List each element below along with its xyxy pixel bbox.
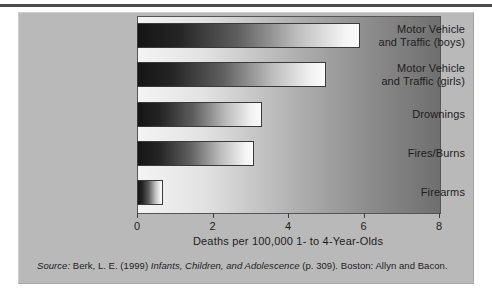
x-tick-mark	[364, 213, 365, 218]
source-work-title: Infants, Children, and Adolescence	[151, 260, 300, 271]
x-tick-mark	[213, 213, 214, 218]
bar	[137, 102, 262, 127]
bar	[137, 62, 326, 87]
chart-panel: Motor Vehicle and Traffic (boys)Motor Ve…	[18, 12, 474, 284]
x-tick-label: 6	[360, 220, 366, 232]
bar-row	[137, 141, 439, 166]
source-author: Berk, L. E. (1999)	[70, 260, 151, 271]
source-prefix: Source:	[37, 260, 70, 271]
x-tick-label: 2	[209, 220, 215, 232]
bar	[137, 141, 254, 166]
bar-row	[137, 23, 439, 48]
x-axis-label: Deaths per 100,000 1- to 4-Year-Olds	[137, 235, 439, 247]
bar-row	[137, 62, 439, 87]
figure-container: Motor Vehicle and Traffic (boys)Motor Ve…	[0, 0, 492, 294]
x-tick-mark	[439, 213, 440, 218]
source-citation: Source: Berk, L. E. (1999) Infants, Chil…	[37, 260, 457, 271]
bar	[137, 23, 360, 48]
bar	[137, 180, 163, 205]
x-tick-mark	[288, 213, 289, 218]
bar-row	[137, 102, 439, 127]
source-suffix: (p. 309). Boston: Allyn and Bacon.	[300, 260, 448, 271]
x-tick-label: 8	[436, 220, 442, 232]
bar-row	[137, 180, 439, 205]
x-tick-label: 4	[285, 220, 291, 232]
x-tick-label: 0	[134, 220, 140, 232]
top-divider-rule	[0, 4, 492, 7]
x-tick-mark	[137, 213, 138, 218]
